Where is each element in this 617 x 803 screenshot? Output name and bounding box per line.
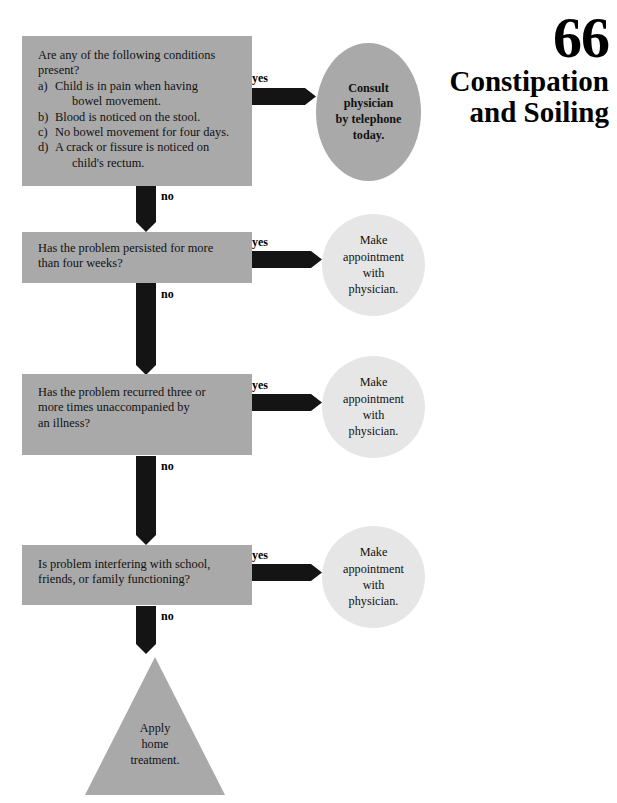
decision-line-3: an illness? bbox=[38, 416, 242, 431]
edge-label-no: no bbox=[161, 288, 174, 300]
arrow-shaft bbox=[252, 564, 311, 581]
arrow-head bbox=[311, 564, 322, 581]
arrow-right-yes-2 bbox=[252, 251, 322, 268]
outcome-line-4: physician. bbox=[343, 281, 404, 297]
list-item: d)A crack or fissure is noticed on child… bbox=[38, 140, 242, 171]
decision-box-text: Has the problem persisted for more than … bbox=[38, 241, 242, 272]
list-marker: d) bbox=[38, 140, 55, 155]
list-item-text: Blood is noticed on the stool. bbox=[55, 110, 200, 124]
list-item-text: A crack or fissure is noticed on bbox=[55, 140, 209, 154]
outcome-line-3: with bbox=[343, 265, 404, 281]
edge-label-yes: yes bbox=[252, 549, 268, 561]
chapter-header: 66 Constipation and Soiling bbox=[389, 14, 609, 128]
decision-line-2: than four weeks? bbox=[38, 256, 242, 271]
edge-label-no: no bbox=[161, 190, 174, 202]
list-item: b)Blood is noticed on the stool. bbox=[38, 110, 242, 125]
decision-line-1: Is problem interfering with school, bbox=[38, 557, 242, 572]
decision-line-1: Has the problem recurred three or bbox=[38, 385, 242, 400]
outcome-line-4: physician. bbox=[343, 593, 404, 609]
decision-box-persisted-four-weeks: Has the problem persisted for more than … bbox=[22, 232, 252, 283]
outcome-text: Consult physician by telephone today. bbox=[329, 81, 407, 143]
terminal-line-1: Apply bbox=[85, 720, 225, 736]
arrow-shaft bbox=[252, 251, 311, 268]
decision-line-1: Has the problem persisted for more bbox=[38, 241, 242, 256]
list-marker: b) bbox=[38, 110, 55, 125]
outcome-line-2: appointment bbox=[343, 561, 404, 577]
arrow-head bbox=[136, 222, 156, 232]
outcome-line-2: appointment bbox=[343, 249, 404, 265]
arrow-head bbox=[136, 535, 156, 545]
outcome-text: Make appointment with physician. bbox=[337, 544, 410, 610]
edge-label-yes: yes bbox=[252, 379, 268, 391]
terminal-apply-home-treatment: Apply home treatment. bbox=[85, 657, 225, 795]
flowchart-page: 66 Constipation and Soiling Are any of t… bbox=[0, 0, 617, 803]
arrow-down-no-4 bbox=[136, 606, 156, 654]
chapter-number: 66 bbox=[389, 14, 609, 62]
decision-box-text: Has the problem recurred three or more t… bbox=[38, 385, 242, 431]
decision-box-conditions: Are any of the following conditions pres… bbox=[22, 36, 252, 186]
arrow-shaft bbox=[136, 283, 156, 365]
terminal-line-2: home bbox=[85, 736, 225, 752]
decision-line-2: friends, or family functioning? bbox=[38, 572, 242, 587]
list-item-text: Child is in pain when having bbox=[55, 79, 198, 93]
outcome-line-3: by telephone bbox=[335, 112, 401, 128]
edge-label-no: no bbox=[161, 460, 174, 472]
outcome-make-appointment-3: Make appointment with physician. bbox=[322, 526, 425, 628]
arrow-shaft bbox=[136, 186, 156, 222]
edge-label-yes: yes bbox=[252, 236, 268, 248]
decision-line-2: more times unaccompanied by bbox=[38, 400, 242, 415]
outcome-line-2: appointment bbox=[343, 391, 404, 407]
outcome-line-3: with bbox=[343, 407, 404, 423]
decision-box-recurred-three-times: Has the problem recurred three or more t… bbox=[22, 374, 252, 455]
decision-lead-text: Are any of the following conditions pres… bbox=[38, 48, 242, 79]
arrow-head bbox=[305, 88, 316, 105]
list-item: c)No bowel movement for four days. bbox=[38, 125, 242, 140]
arrow-shaft bbox=[252, 88, 305, 105]
decision-box-text: Is problem interfering with school, frie… bbox=[38, 557, 242, 588]
page-title-line-2: and Soiling bbox=[389, 97, 609, 128]
list-item-continuation: child's rectum. bbox=[55, 156, 242, 171]
outcome-line-2: physician bbox=[335, 96, 401, 112]
arrow-right-yes-1 bbox=[252, 88, 316, 105]
outcome-make-appointment-2: Make appointment with physician. bbox=[322, 356, 425, 458]
outcome-text: Make appointment with physician. bbox=[337, 374, 410, 440]
arrow-head bbox=[136, 644, 156, 654]
list-item-continuation: bowel movement. bbox=[55, 94, 242, 109]
outcome-line-3: with bbox=[343, 577, 404, 593]
arrow-head bbox=[311, 251, 322, 268]
outcome-line-1: Make bbox=[343, 374, 404, 390]
arrow-down-no-2 bbox=[136, 283, 156, 375]
list-marker: c) bbox=[38, 125, 55, 140]
terminal-line-3: treatment. bbox=[85, 752, 225, 768]
arrow-shaft bbox=[136, 456, 156, 535]
arrow-down-no-3 bbox=[136, 456, 156, 545]
edge-label-yes: yes bbox=[252, 72, 268, 84]
outcome-make-appointment-1: Make appointment with physician. bbox=[322, 214, 425, 316]
arrow-head bbox=[311, 394, 322, 411]
list-item-text: No bowel movement for four days. bbox=[55, 125, 229, 139]
arrow-right-yes-4 bbox=[252, 564, 322, 581]
outcome-line-1: Make bbox=[343, 544, 404, 560]
outcome-line-1: Make bbox=[343, 232, 404, 248]
arrow-shaft bbox=[252, 394, 311, 411]
decision-box-text: Are any of the following conditions pres… bbox=[38, 48, 242, 171]
page-title: Constipation and Soiling bbox=[389, 66, 609, 128]
list-item: a)Child is in pain when having bowel mov… bbox=[38, 79, 242, 110]
arrow-right-yes-3 bbox=[252, 394, 322, 411]
outcome-line-4: today. bbox=[335, 128, 401, 144]
decision-box-interfering-with-school: Is problem interfering with school, frie… bbox=[22, 545, 252, 605]
outcome-consult-physician: Consult physician by telephone today. bbox=[316, 43, 421, 181]
arrow-down-no-1 bbox=[136, 186, 156, 232]
terminal-text: Apply home treatment. bbox=[85, 720, 225, 769]
page-title-line-1: Constipation bbox=[389, 66, 609, 97]
edge-label-no: no bbox=[161, 610, 174, 622]
arrow-shaft bbox=[136, 606, 156, 644]
outcome-text: Make appointment with physician. bbox=[337, 232, 410, 298]
outcome-line-4: physician. bbox=[343, 423, 404, 439]
list-marker: a) bbox=[38, 79, 55, 94]
outcome-line-1: Consult bbox=[335, 81, 401, 97]
